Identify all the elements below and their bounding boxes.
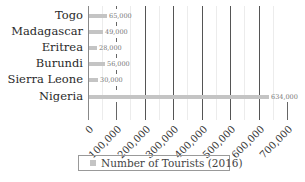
category-label: Togo [55, 8, 83, 22]
tick-mark [116, 22, 117, 26]
minor-gridline [244, 6, 245, 120]
x-tick-label: 0 [83, 124, 95, 136]
tick-mark [116, 38, 117, 42]
minor-gridline [273, 6, 274, 120]
bar-nigeria [89, 95, 269, 99]
category-label: Burundi [36, 56, 83, 70]
category-label: Madagascar [11, 24, 83, 38]
legend: Number of Tourists (2016) [78, 155, 230, 171]
data-label: 56,000 [107, 60, 130, 68]
minor-gridline [216, 6, 217, 120]
minor-gridline [159, 6, 160, 120]
tick-mark [287, 102, 288, 120]
bar-eritrea [89, 46, 97, 50]
category-label: Nigeria [39, 89, 83, 103]
bar-togo [89, 14, 107, 18]
tick-mark [116, 70, 117, 74]
gridline-500000 [230, 6, 231, 120]
gridline-400000 [202, 6, 203, 120]
data-label: 30,000 [100, 76, 123, 84]
gridline-200000 [145, 6, 146, 120]
data-label: 49,000 [105, 28, 128, 36]
data-label: 28,000 [99, 44, 122, 52]
category-label: Sierra Leone [8, 72, 83, 86]
minor-gridline [187, 6, 188, 120]
bar-sierra-leone [89, 78, 98, 82]
category-label: Eritrea [42, 40, 83, 54]
gridline-300000 [173, 6, 174, 120]
bar-madagascar [89, 30, 103, 34]
legend-label: Number of Tourists (2016) [101, 156, 243, 170]
gridline-600000 [259, 6, 260, 120]
tick-mark [116, 54, 117, 58]
tick-mark [116, 102, 117, 120]
tick-mark [116, 6, 117, 9]
minor-gridline [130, 6, 131, 120]
data-label: 634,000 [271, 93, 298, 101]
data-label: 65,000 [109, 12, 132, 20]
tick-mark [116, 86, 117, 90]
bar-burundi [89, 62, 105, 66]
legend-swatch-icon [90, 160, 96, 166]
